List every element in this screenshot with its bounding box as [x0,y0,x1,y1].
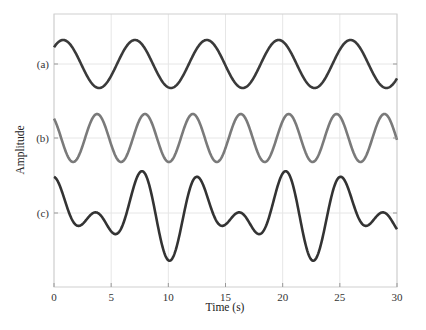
time-series-chart: 051015202530 (a)(b)(c) Time (s) Amplitud… [0,0,426,330]
y-tick-label: (b) [36,132,49,145]
x-tick-label: 0 [51,291,57,303]
x-axis-label: Time (s) [206,301,245,314]
x-tick-label: 5 [108,291,114,303]
x-tick-label: 20 [277,291,289,303]
y-axis-label: Amplitude [14,125,27,174]
x-tick-label: 25 [334,291,346,303]
y-tick-label: (c) [37,207,50,220]
x-tick-label: 10 [163,291,175,303]
x-tick-label: 30 [392,291,404,303]
x-axis-ticks: 051015202530 [51,283,403,303]
y-tick-label: (a) [37,58,50,71]
